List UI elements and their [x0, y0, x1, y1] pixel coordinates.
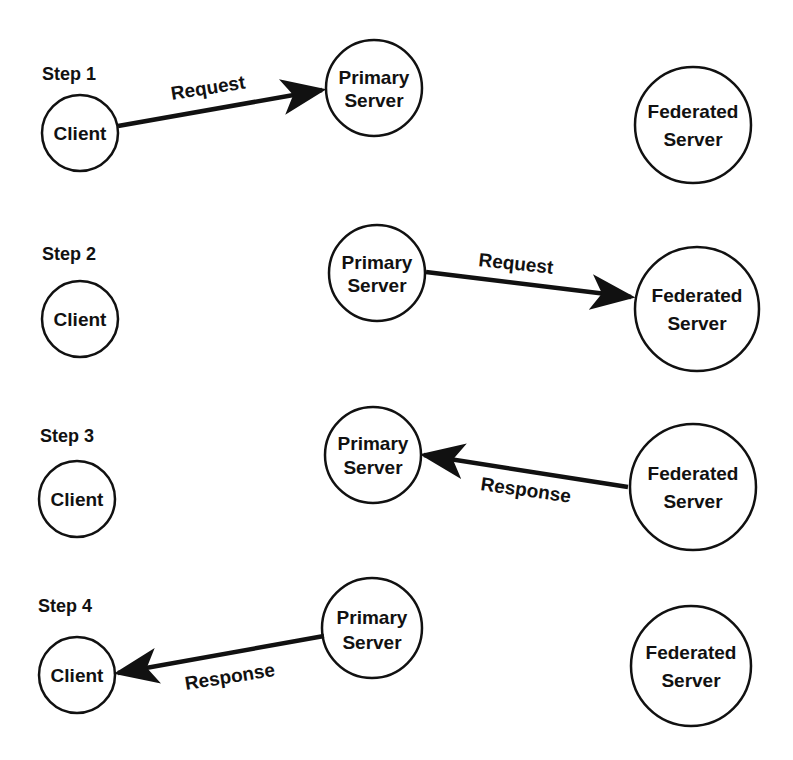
federated-server-label-line2: Server — [661, 670, 721, 691]
federated-server-label-line2: Server — [663, 129, 723, 150]
primary-server-circle — [329, 225, 425, 321]
client-node-label: Client — [51, 489, 104, 510]
step-2: Step 2 Client Primary Server Federated S… — [42, 225, 759, 371]
federated-server-node: Federated Server — [635, 67, 751, 183]
primary-server-node: Primary Server — [326, 40, 422, 136]
federated-server-label-line1: Federated — [646, 642, 737, 663]
primary-server-circle — [326, 40, 422, 136]
primary-server-label-line1: Primary — [339, 67, 410, 88]
client-node: Client — [39, 461, 115, 537]
step-4: Step 4 Client Primary Server Federated S… — [38, 578, 751, 726]
step-3-label: Step 3 — [40, 426, 94, 446]
primary-server-node: Primary Server — [329, 225, 425, 321]
request-arrow-label: Request — [169, 71, 247, 104]
federated-server-label-line2: Server — [663, 491, 723, 512]
federated-server-label-line2: Server — [667, 313, 727, 334]
request-arrow-label: Request — [478, 249, 555, 278]
step-1-label: Step 1 — [42, 64, 96, 84]
client-node: Client — [39, 637, 115, 713]
federated-server-circle — [635, 247, 759, 371]
primary-server-label-line1: Primary — [342, 252, 413, 273]
step-1: Step 1 Client Primary Server Federated S… — [42, 40, 751, 183]
federated-server-label-line1: Federated — [648, 101, 739, 122]
primary-server-circle — [325, 407, 421, 503]
response-arrow-label: Response — [183, 659, 276, 694]
primary-server-label-line2: Server — [342, 632, 402, 653]
primary-server-node: Primary Server — [325, 407, 421, 503]
step-2-label: Step 2 — [42, 244, 96, 264]
client-node: Client — [42, 95, 118, 171]
federated-server-node: Federated Server — [635, 247, 759, 371]
client-node-label: Client — [54, 123, 107, 144]
federated-server-circle — [635, 67, 751, 183]
primary-server-label-line2: Server — [344, 90, 404, 111]
federated-server-label-line1: Federated — [648, 463, 739, 484]
request-arrow — [426, 272, 631, 297]
federated-server-circle — [630, 424, 756, 550]
federated-server-label-line1: Federated — [652, 285, 743, 306]
step-3: Step 3 Client Primary Server Federated S… — [39, 407, 756, 550]
primary-server-label-line2: Server — [343, 457, 403, 478]
primary-server-node: Primary Server — [322, 578, 422, 678]
primary-server-label-line1: Primary — [337, 607, 408, 628]
federated-server-node: Federated Server — [631, 606, 751, 726]
primary-server-label-line1: Primary — [338, 433, 409, 454]
federated-server-node: Federated Server — [630, 424, 756, 550]
client-node-label: Client — [54, 309, 107, 330]
federated-query-diagram: Step 1 Client Primary Server Federated S… — [0, 0, 793, 760]
federated-server-circle — [631, 606, 751, 726]
client-node: Client — [42, 281, 118, 357]
primary-server-circle — [322, 578, 422, 678]
client-node-label: Client — [51, 665, 104, 686]
step-4-label: Step 4 — [38, 596, 92, 616]
primary-server-label-line2: Server — [347, 275, 407, 296]
